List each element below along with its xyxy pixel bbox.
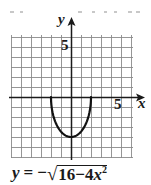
equation-equals: = bbox=[24, 163, 34, 183]
equation-negative: − bbox=[37, 163, 47, 183]
y-axis-label: y bbox=[58, 12, 65, 27]
radicand-exponent: 2 bbox=[102, 164, 107, 175]
radical-icon: √ bbox=[47, 164, 57, 183]
radicand-constant: 16−4 bbox=[58, 165, 93, 184]
equation-caption: y = − √ 16−4x2 bbox=[12, 163, 107, 183]
equation-radicand: 16−4x2 bbox=[57, 165, 107, 183]
equation-lhs: y bbox=[12, 163, 20, 183]
graph-canvas bbox=[0, 0, 151, 160]
axes bbox=[9, 17, 145, 160]
radicand-variable: x bbox=[94, 165, 103, 184]
y-tick-label: 5 bbox=[61, 38, 69, 53]
x-axis-label: x bbox=[138, 96, 146, 111]
x-tick-label: 5 bbox=[114, 97, 122, 112]
graph: y x 5 5 bbox=[0, 0, 151, 160]
